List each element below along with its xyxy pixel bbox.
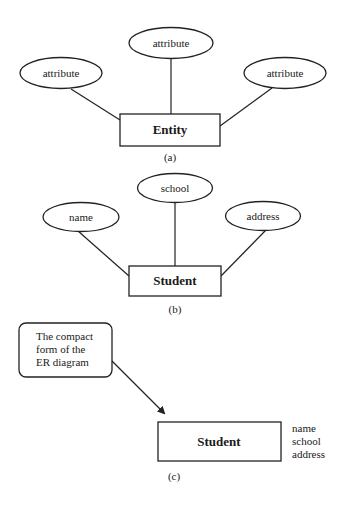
entity-label-a: Entity	[153, 122, 188, 137]
er-diagram-figure: attribute attribute attribute Entity (a)…	[0, 0, 344, 505]
attribute-label-right-a: attribute	[267, 67, 304, 79]
arrow-icon	[112, 361, 164, 413]
diagram-b: name school address Student (b)	[43, 174, 301, 317]
attribute-list-name-c: name	[292, 422, 316, 434]
entity-label-c: Student	[197, 434, 241, 449]
connector-left-a	[71, 89, 120, 120]
connector-right-a	[220, 88, 272, 126]
connector-name-b	[78, 231, 129, 276]
attribute-label-address-b: address	[247, 210, 280, 222]
attribute-label-top-a: attribute	[153, 37, 190, 49]
entity-label-b: Student	[153, 273, 197, 288]
attribute-label-left-a: attribute	[43, 67, 80, 79]
callout-line-2: form of the	[36, 343, 86, 355]
attribute-label-school-b: school	[161, 182, 190, 194]
diagram-a: attribute attribute attribute Entity (a)	[20, 28, 326, 165]
attribute-list-school-c: school	[292, 435, 321, 447]
diagram-c: The compact form of the ER diagram Stude…	[19, 323, 325, 483]
attribute-label-name-b: name	[69, 211, 93, 223]
caption-a: (a)	[164, 151, 177, 164]
attribute-list-address-c: address	[292, 448, 325, 460]
callout-line-3: ER diagram	[36, 356, 89, 368]
callout-line-1: The compact	[36, 330, 93, 342]
caption-b: (b)	[169, 303, 182, 316]
connector-address-b	[221, 230, 266, 276]
caption-c: (c)	[168, 470, 181, 483]
